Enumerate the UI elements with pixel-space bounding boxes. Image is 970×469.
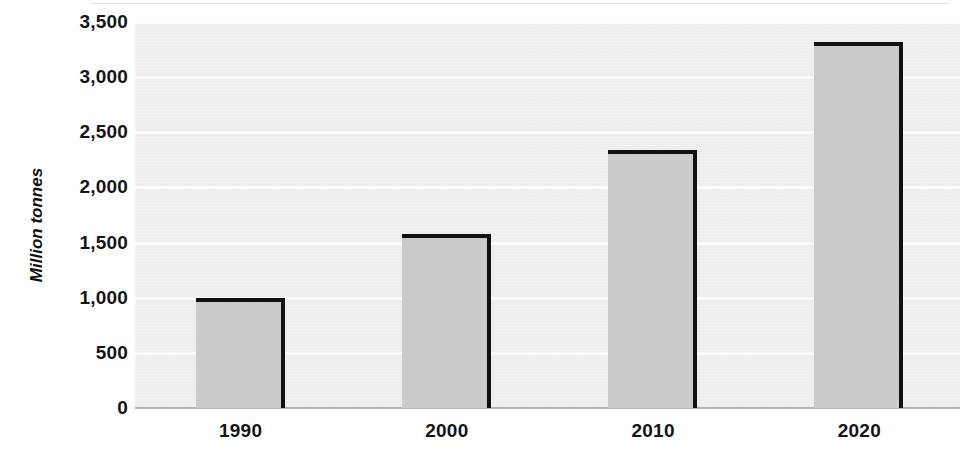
gridline [135, 22, 960, 24]
x-axis-tick-label: 2010 [632, 420, 675, 442]
x-axis-tick-label: 2000 [425, 420, 468, 442]
bar-2000 [402, 234, 491, 408]
bar-1990 [196, 298, 285, 408]
y-axis-title: Million tonnes [27, 140, 47, 310]
bar-chart: 05001,0001,5002,0002,5003,0003,500 19902… [0, 0, 970, 469]
x-axis-tick-label: 2020 [838, 420, 881, 442]
bar-2020 [814, 42, 903, 408]
bar-2010 [608, 150, 697, 408]
x-axis-tick-label: 1990 [219, 420, 262, 442]
